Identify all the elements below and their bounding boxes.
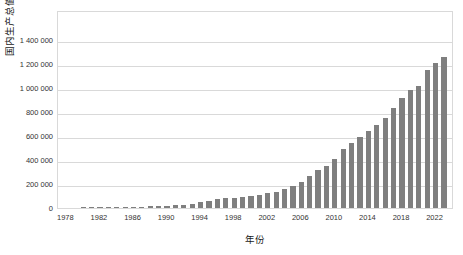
x-tick-label: 1994 [183, 213, 217, 222]
x-axis-tick-labels: 1978198219861990199419982002200620102014… [0, 0, 463, 255]
x-tick-label: 1998 [216, 213, 250, 222]
x-tick-label: 1982 [82, 213, 116, 222]
x-tick-label: 2018 [384, 213, 418, 222]
chart-figure: 国内生产总值 / 亿元 1 400 0001 200 0001 000 0008… [0, 0, 463, 255]
x-tick-label: 1986 [116, 213, 150, 222]
x-tick-label: 1990 [149, 213, 183, 222]
x-axis-title: 年份 [57, 232, 453, 246]
x-tick-label: 2014 [350, 213, 384, 222]
x-tick-label: 2022 [418, 213, 452, 222]
x-tick-label: 2010 [317, 213, 351, 222]
x-tick-label: 1978 [48, 213, 82, 222]
x-tick-label: 2002 [250, 213, 284, 222]
x-tick-label: 2006 [283, 213, 317, 222]
